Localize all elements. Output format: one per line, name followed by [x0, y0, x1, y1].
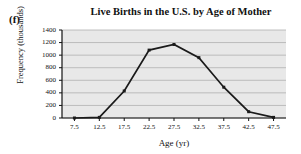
x-tick-label: 12.5 [87, 124, 111, 131]
y-tick-label: 1200 [30, 39, 56, 46]
x-tick-label: 32.5 [187, 124, 211, 131]
data-point-marker [73, 117, 76, 120]
x-tick-label: 42.5 [237, 124, 261, 131]
x-tick-label: 37.5 [212, 124, 236, 131]
y-tick-label: 0 [30, 115, 56, 122]
data-point-marker [222, 86, 225, 89]
x-tick-label: 7.5 [62, 124, 86, 131]
data-point-marker [272, 116, 275, 119]
y-tick-label: 600 [30, 77, 56, 84]
data-point-marker [148, 49, 151, 52]
y-tick-label: 800 [30, 64, 56, 71]
x-tick-label: 22.5 [137, 124, 161, 131]
y-tick-label: 400 [30, 89, 56, 96]
y-tick-label: 1400 [30, 27, 56, 34]
data-point-marker [247, 110, 250, 113]
x-tick-label: 27.5 [162, 124, 186, 131]
x-tick-label: 47.5 [262, 124, 286, 131]
figure-panel: (f) Live Births in the U.S. by Age of Mo… [0, 0, 301, 154]
x-tick-label: 17.5 [112, 124, 136, 131]
y-tick-label: 1000 [30, 52, 56, 59]
data-point-marker [173, 43, 176, 46]
data-point-marker [123, 89, 126, 92]
data-point-marker [98, 116, 101, 119]
y-tick-label: 200 [30, 102, 56, 109]
data-point-marker [197, 56, 200, 59]
